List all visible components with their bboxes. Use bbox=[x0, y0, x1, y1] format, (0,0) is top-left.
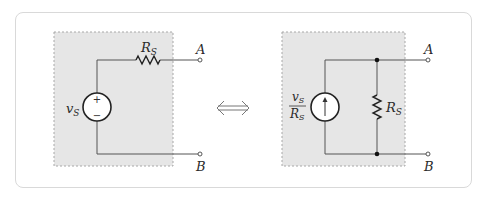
terminal-a-label: A bbox=[423, 42, 433, 57]
node-dot-top bbox=[375, 58, 380, 63]
minus-sign: − bbox=[93, 110, 101, 121]
circuit-diagram: + − RS A B vS A B bbox=[0, 0, 488, 200]
terminal-a bbox=[198, 58, 202, 62]
thevenin-circuit: + − RS A B vS bbox=[54, 32, 206, 174]
terminal-b bbox=[426, 152, 430, 156]
node-dot-bottom bbox=[375, 152, 380, 157]
terminal-a bbox=[426, 58, 430, 62]
plus-sign: + bbox=[93, 94, 101, 105]
terminal-b-label: B bbox=[195, 159, 206, 174]
equivalence-arrow-icon bbox=[217, 101, 249, 115]
terminal-a-label: A bbox=[195, 42, 205, 57]
terminal-b-label: B bbox=[423, 159, 434, 174]
norton-circuit: A B RS vS RS bbox=[282, 32, 434, 174]
terminal-b bbox=[198, 152, 202, 156]
